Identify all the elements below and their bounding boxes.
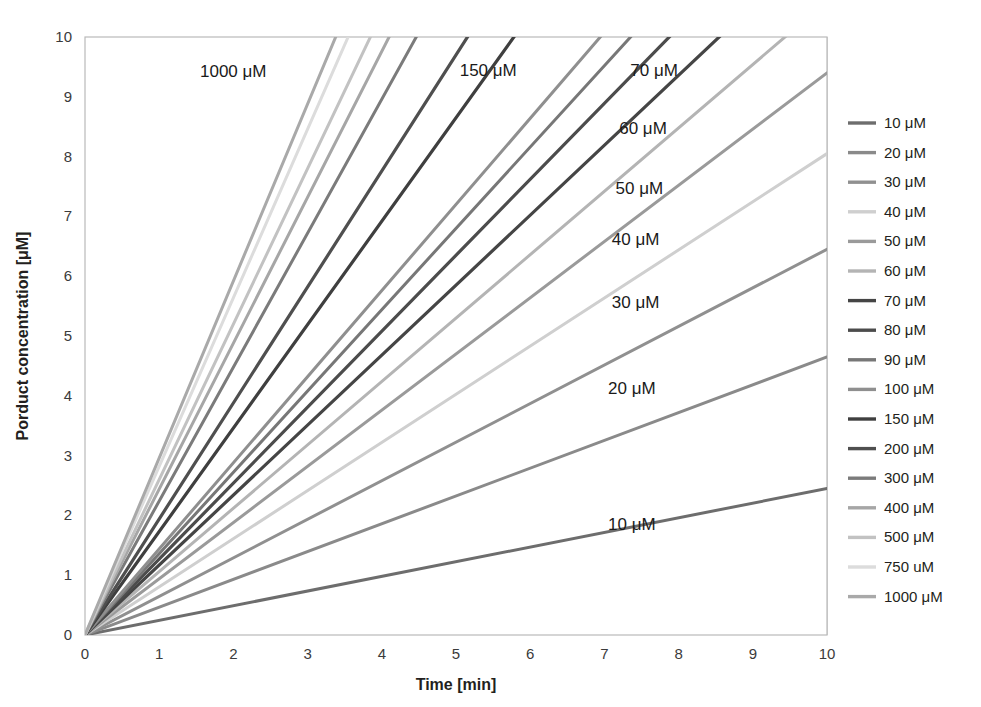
y-tick-label: 0 bbox=[64, 626, 72, 643]
y-tick-label: 3 bbox=[64, 447, 72, 464]
series-annotation: 30 μM bbox=[612, 293, 660, 312]
y-tick-label: 7 bbox=[64, 207, 72, 224]
y-tick-label: 2 bbox=[64, 506, 72, 523]
legend-label: 200 μM bbox=[884, 440, 934, 457]
x-tick-label: 5 bbox=[452, 645, 460, 662]
y-tick-label: 1 bbox=[64, 566, 72, 583]
x-tick-label: 6 bbox=[526, 645, 534, 662]
legend-label: 40 μM bbox=[884, 203, 926, 220]
y-tick-label: 4 bbox=[64, 387, 72, 404]
legend-label: 20 μM bbox=[884, 144, 926, 161]
x-tick-label: 3 bbox=[303, 645, 311, 662]
y-tick-label: 10 bbox=[55, 28, 72, 45]
legend-label: 60 μM bbox=[884, 262, 926, 279]
series-annotation: 70 μM bbox=[630, 61, 678, 80]
x-tick-label: 4 bbox=[378, 645, 386, 662]
x-tick-label: 7 bbox=[600, 645, 608, 662]
x-tick-label: 9 bbox=[749, 645, 757, 662]
legend-label: 90 μM bbox=[884, 351, 926, 368]
legend-label: 80 μM bbox=[884, 321, 926, 338]
legend-label: 30 μM bbox=[884, 173, 926, 190]
legend-label: 70 μM bbox=[884, 292, 926, 309]
x-tick-label: 0 bbox=[81, 645, 89, 662]
series-annotation: 40 μM bbox=[612, 230, 660, 249]
legend-label: 10 μM bbox=[884, 114, 926, 131]
y-axis-title: Porduct concentration [μM] bbox=[14, 232, 31, 441]
series-annotation: 10 μM bbox=[608, 515, 656, 534]
y-tick-label: 5 bbox=[64, 327, 72, 344]
chart-figure: 10 μM20 μM30 μM40 μM50 μM60 μM70 μM150 μ… bbox=[0, 0, 981, 707]
series-annotation: 150 μM bbox=[460, 61, 517, 80]
y-tick-label: 6 bbox=[64, 267, 72, 284]
plot-frame bbox=[85, 37, 827, 635]
x-tick-label: 8 bbox=[674, 645, 682, 662]
legend-label: 300 μM bbox=[884, 469, 934, 486]
legend-label: 750 uM bbox=[884, 558, 934, 575]
legend-label: 100 μM bbox=[884, 380, 934, 397]
series-annotation: 50 μM bbox=[616, 179, 664, 198]
y-tick-label: 9 bbox=[64, 88, 72, 105]
x-axis-title: Time [min] bbox=[416, 676, 497, 693]
legend-label: 50 μM bbox=[884, 232, 926, 249]
series-annotation: 60 μM bbox=[619, 119, 667, 138]
legend-label: 400 μM bbox=[884, 499, 934, 516]
legend-label: 1000 μM bbox=[884, 588, 943, 605]
series-annotation: 1000 μM bbox=[200, 62, 267, 81]
progress-curve-chart: 10 μM20 μM30 μM40 μM50 μM60 μM70 μM150 μ… bbox=[0, 0, 981, 707]
x-tick-label: 1 bbox=[155, 645, 163, 662]
legend-label: 150 μM bbox=[884, 410, 934, 427]
y-tick-label: 8 bbox=[64, 148, 72, 165]
series-annotation: 20 μM bbox=[608, 379, 656, 398]
legend-label: 500 μM bbox=[884, 528, 934, 545]
x-tick-label: 2 bbox=[229, 645, 237, 662]
x-tick-label: 10 bbox=[819, 645, 836, 662]
